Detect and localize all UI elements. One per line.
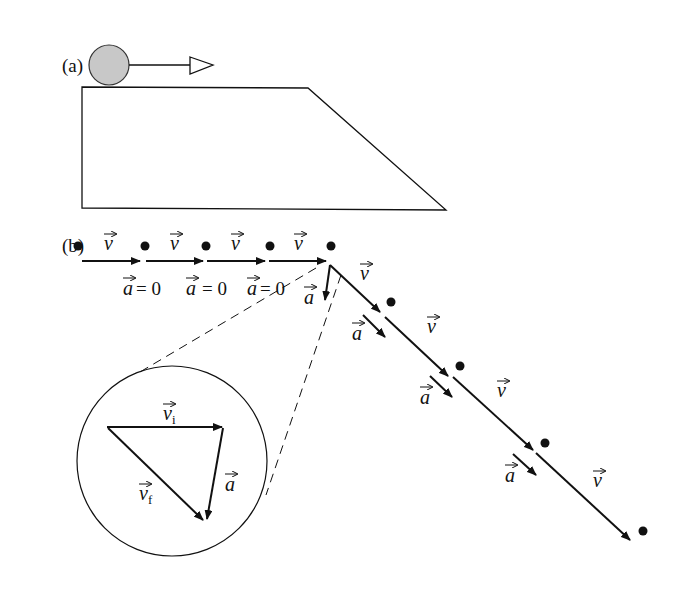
ramp-block	[82, 87, 446, 210]
svg-text:= 0: = 0	[260, 278, 285, 299]
slope-acceleration-arrows	[363, 315, 536, 475]
svg-text:v: v	[104, 232, 113, 254]
ball	[89, 45, 129, 85]
motion-diagram: (a) (b) v v v v a = 0 a	[0, 0, 679, 590]
velocity-arrow-head	[190, 57, 213, 74]
svg-text:a: a	[247, 277, 257, 299]
panel-a-label: (a)	[62, 55, 83, 77]
svg-text:a: a	[505, 464, 515, 486]
svg-text:a: a	[352, 322, 362, 344]
svg-text:a: a	[420, 386, 430, 408]
svg-text:a: a	[123, 277, 133, 299]
svg-text:= 0: = 0	[202, 278, 227, 299]
slope-velocity-arrows	[330, 265, 630, 540]
svg-text:v: v	[294, 232, 303, 254]
svg-text:a: a	[186, 277, 196, 299]
svg-text:v: v	[139, 482, 148, 504]
svg-text:i: i	[172, 412, 176, 427]
svg-text:v: v	[427, 315, 436, 337]
svg-text:v: v	[593, 469, 602, 491]
svg-text:a: a	[225, 473, 235, 495]
zero-acceleration-labels: a = 0 a = 0 a = 0	[123, 277, 285, 299]
svg-text:v: v	[360, 262, 369, 284]
svg-text:v: v	[163, 402, 172, 424]
vector-triangle	[107, 427, 223, 520]
svg-text:v: v	[231, 232, 240, 254]
svg-text:v: v	[497, 379, 506, 401]
inset-labels: v i a v f	[139, 402, 237, 507]
svg-text:v: v	[170, 232, 179, 254]
inset-circle	[77, 366, 267, 556]
corner-acceleration-arrow	[325, 265, 330, 300]
slope-labels: v a v a v a v	[352, 262, 605, 491]
svg-text:= 0: = 0	[136, 278, 161, 299]
svg-text:f: f	[148, 492, 153, 507]
corner-a-label: a	[304, 286, 314, 308]
